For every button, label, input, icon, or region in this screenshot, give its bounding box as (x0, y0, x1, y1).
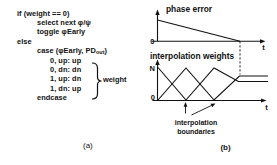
code-line-case: case (φEarly, PDout) (37, 46, 107, 56)
subscript-out: out (96, 49, 105, 55)
phase-error-origin-label: 0 (150, 37, 154, 46)
phase-error-chart: phase error 0 t (150, 4, 265, 75)
charts-panel: phase error 0 t interpolation weights N … (135, 0, 277, 165)
caption-b: (b) (220, 143, 231, 152)
caption-a: (a) (83, 141, 93, 150)
boundaries-annotation-line1: interpolation (175, 119, 217, 127)
code-line: if (weight == 0) (17, 9, 107, 18)
code-line: else (17, 37, 107, 46)
phase-error-title: phase error (166, 4, 213, 14)
interpolation-weights-chart: interpolation weights N 0 t interpolatio… (150, 51, 269, 135)
interpolation-t-label: t (265, 103, 268, 112)
code-line: toggle φEarly (37, 27, 107, 36)
phase-error-line (158, 20, 241, 41)
boundary-arrow-1-head-icon (184, 102, 188, 107)
code-line: select next φ/ψ (37, 18, 107, 27)
y-axis-arrow-icon (155, 10, 159, 16)
interpolation-n-label: N (150, 64, 155, 73)
figure: if (weight == 0) select next φ/ψ toggle … (0, 0, 277, 165)
boundaries-annotation-line2: boundaries (177, 128, 215, 135)
weight-brace-label: weight (103, 76, 126, 84)
boundary-arrow-2 (192, 106, 212, 116)
phase-error-t-label: t (262, 43, 265, 52)
interpolation-origin-label: 0 (151, 93, 155, 102)
weight-line-2 (158, 68, 268, 100)
interpolation-title: interpolation weights (150, 51, 235, 61)
weight-line-1 (158, 68, 268, 101)
